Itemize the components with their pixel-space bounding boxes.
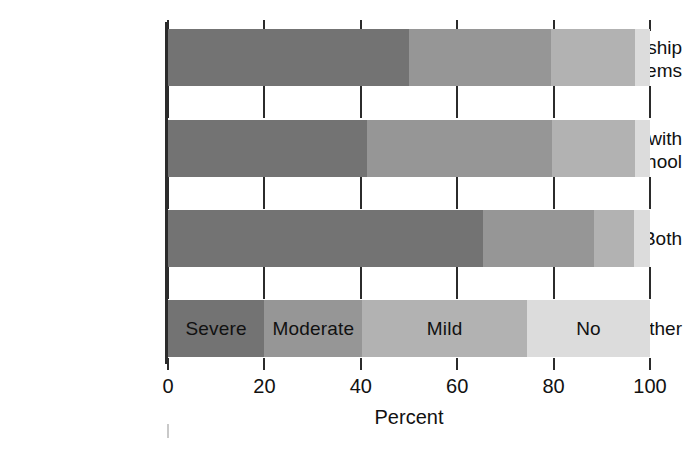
tick-bottom	[360, 358, 362, 370]
bar-segment-mild[interactable]	[594, 210, 634, 267]
tick-gap	[263, 86, 265, 118]
x-axis-tick-label: 100	[633, 375, 666, 398]
bar-segment-mild[interactable]	[552, 120, 635, 177]
bar-segment-severe[interactable]	[168, 210, 483, 267]
x-axis-tick-label: 60	[446, 375, 468, 398]
tick-gap	[456, 267, 458, 299]
tick-gap	[553, 86, 555, 118]
tick-gap	[360, 267, 362, 299]
x-axis-tick-label: 40	[350, 375, 372, 398]
bar-segment-no[interactable]: No	[527, 300, 650, 357]
tick-gap	[263, 267, 265, 299]
tick-gap	[553, 177, 555, 209]
bar-segment-moderate[interactable]	[367, 120, 552, 177]
bar-segment-severe[interactable]	[168, 29, 409, 86]
bar-segment-moderate[interactable]: Moderate	[264, 300, 362, 357]
bar-segment-moderate[interactable]	[483, 210, 593, 267]
x-axis-tick-label: 20	[253, 375, 275, 398]
x-axis-title: Percent	[168, 406, 650, 429]
bar-segment-no[interactable]	[635, 120, 650, 177]
segment-label: Mild	[427, 318, 463, 340]
bar-row[interactable]	[168, 120, 650, 177]
tick-gap	[649, 86, 651, 118]
bar-row[interactable]: SevereModerateMildNo	[168, 300, 650, 357]
tick-gap	[649, 267, 651, 299]
tick-bottom	[456, 358, 458, 370]
tick-gap	[456, 86, 458, 118]
bar-row[interactable]	[168, 29, 650, 86]
tick-gap	[553, 267, 555, 299]
bar-row[interactable]	[168, 210, 650, 267]
x-axis-tick-label: 0	[162, 375, 173, 398]
tick-gap	[360, 86, 362, 118]
tick-gap	[167, 267, 169, 299]
scan-artifact	[167, 424, 169, 438]
x-axis-tick-label: 80	[542, 375, 564, 398]
bar-segment-severe[interactable]: Severe	[168, 300, 264, 357]
tick-bottom	[553, 358, 555, 370]
stacked-bar-chart: Relationship problems Problems with work…	[0, 0, 691, 450]
segment-label: Moderate	[272, 318, 354, 340]
segment-label: Severe	[185, 318, 246, 340]
tick-gap	[456, 177, 458, 209]
bar-segment-mild[interactable]	[551, 29, 635, 86]
bar-segment-mild[interactable]: Mild	[362, 300, 527, 357]
bar-segment-no[interactable]	[634, 210, 650, 267]
tick-bottom	[649, 358, 651, 370]
bar-segment-no[interactable]	[635, 29, 650, 86]
bar-segment-severe[interactable]	[168, 120, 367, 177]
segment-label: No	[576, 318, 601, 340]
bar-segment-moderate[interactable]	[409, 29, 551, 86]
tick-gap	[649, 177, 651, 209]
tick-bottom	[263, 358, 265, 370]
tick-bottom	[167, 358, 169, 370]
tick-gap	[263, 177, 265, 209]
tick-gap	[167, 86, 169, 118]
tick-gap	[167, 177, 169, 209]
tick-gap	[360, 177, 362, 209]
